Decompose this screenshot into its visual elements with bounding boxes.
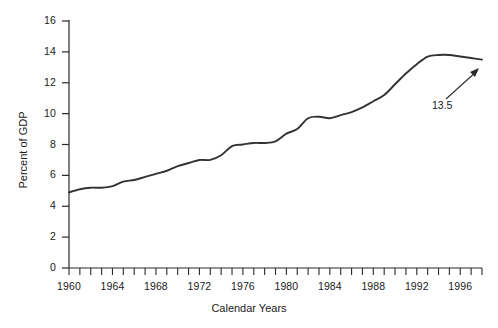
x-tick-label: 1992 — [397, 280, 437, 292]
x-axis-ticks — [69, 268, 482, 275]
x-tick-label: 1976 — [223, 280, 263, 292]
x-tick-label: 1984 — [310, 280, 350, 292]
y-tick-label: 6 — [34, 168, 56, 180]
y-axis-ticks — [62, 21, 69, 268]
y-tick-label: 12 — [34, 76, 56, 88]
annotation-label-13-5: 13.5 — [432, 99, 452, 111]
y-tick-label: 2 — [34, 230, 56, 242]
x-tick-label: 1972 — [179, 280, 219, 292]
plot-area — [0, 0, 498, 328]
data-series-group — [69, 55, 482, 193]
y-tick-label: 10 — [34, 107, 56, 119]
x-tick-label: 1964 — [92, 280, 132, 292]
data-line-percent-of-gdp — [69, 55, 482, 193]
x-tick-label: 1968 — [136, 280, 176, 292]
x-axis-title: Calendar Years — [0, 302, 498, 314]
y-axis-title: Percent of GDP — [17, 90, 29, 210]
annotation-arrow-line — [446, 71, 477, 99]
y-tick-label: 4 — [34, 199, 56, 211]
annotation-arrow-group — [446, 68, 479, 99]
y-tick-label: 8 — [34, 138, 56, 150]
y-tick-label: 14 — [34, 45, 56, 57]
y-tick-label: 0 — [34, 261, 56, 273]
y-tick-label: 16 — [34, 14, 56, 26]
chart-figure: 0246810121416 19601964196819721976198019… — [0, 0, 498, 328]
x-tick-label: 1980 — [266, 280, 306, 292]
x-tick-label: 1988 — [353, 280, 393, 292]
x-tick-label: 1960 — [49, 280, 89, 292]
x-tick-label: 1996 — [440, 280, 480, 292]
axis-lines — [69, 20, 482, 268]
